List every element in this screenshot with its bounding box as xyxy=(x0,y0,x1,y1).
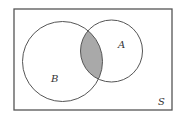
set-a-label: A xyxy=(117,39,125,50)
universe-label: S xyxy=(158,96,165,107)
set-b-label: B xyxy=(50,73,58,84)
venn-diagram: A B S xyxy=(0,0,180,121)
